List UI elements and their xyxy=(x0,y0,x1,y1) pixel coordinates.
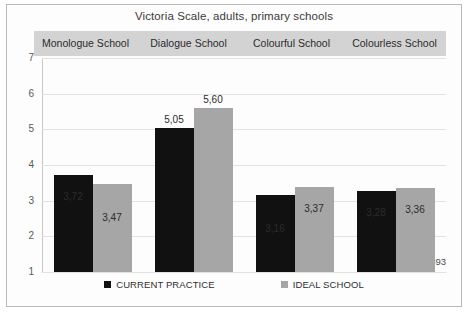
bar-value-label-2-series-2: 5,60 xyxy=(188,94,239,106)
category-header-band: Monologue SchoolDialogue SchoolColourful… xyxy=(34,31,446,56)
bar-value-label-1-series-1: 3,72 xyxy=(48,191,99,203)
bar-1-series-2 xyxy=(93,184,132,272)
legend-swatch-icon-2 xyxy=(281,281,288,288)
gridline-5 xyxy=(42,129,446,130)
y-axis-tick-3: 3 xyxy=(8,195,34,207)
gridline-6 xyxy=(42,94,446,95)
y-axis-tick-1: 1 xyxy=(8,266,34,278)
legend-label-2: IDEAL SCHOOL xyxy=(293,279,364,290)
bar-value-label-4-series-2: 3,36 xyxy=(390,204,441,216)
category-label-3: Colourful School xyxy=(240,31,343,56)
legend-swatch-icon-1 xyxy=(104,281,111,288)
category-label-4: Colourless School xyxy=(343,31,446,56)
category-label-2: Dialogue School xyxy=(137,31,240,56)
y-axis-tick-5: 5 xyxy=(8,123,34,135)
chart-legend: CURRENT PRACTICEIDEAL SCHOOL xyxy=(0,279,468,290)
y-axis-tick-4: 4 xyxy=(8,159,34,171)
legend-label-1: CURRENT PRACTICE xyxy=(116,279,215,290)
gridline-1 xyxy=(42,272,446,273)
bar-value-label-3-series-1: 3,16 xyxy=(250,223,301,235)
y-axis-tick-2: 2 xyxy=(8,230,34,242)
legend-item-1: CURRENT PRACTICE xyxy=(104,279,215,290)
chart-figure: Victoria Scale, adults, primary schools … xyxy=(0,0,468,313)
gridline-7 xyxy=(42,58,446,59)
gridline-4 xyxy=(42,165,446,166)
bar-value-label-2-series-1: 5,05 xyxy=(149,114,200,126)
y-axis-tick-7: 7 xyxy=(8,52,34,64)
bar-2-series-2 xyxy=(194,108,233,272)
bar-value-label-3-series-2: 3,37 xyxy=(289,203,340,215)
bar-value-label-1-series-2: 3,47 xyxy=(87,212,138,224)
legend-item-2: IDEAL SCHOOL xyxy=(281,279,364,290)
bar-3-series-2 xyxy=(295,187,334,272)
category-label-1: Monologue School xyxy=(34,31,137,56)
y-axis-tick-6: 6 xyxy=(8,88,34,100)
chart-title: Victoria Scale, adults, primary schools xyxy=(0,10,468,22)
bar-4-series-2 xyxy=(396,188,435,272)
bar-2-series-1 xyxy=(155,128,194,272)
